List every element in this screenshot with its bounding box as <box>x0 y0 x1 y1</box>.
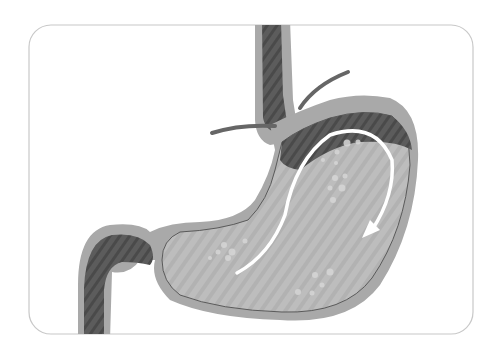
illustration-frame <box>0 0 502 349</box>
stomach-illustration <box>0 0 502 349</box>
